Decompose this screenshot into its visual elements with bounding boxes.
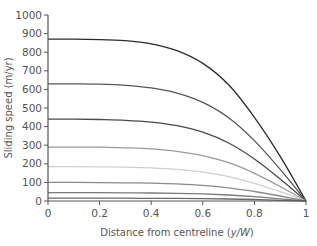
x-tick-label: 0: [45, 207, 52, 219]
x-tick-label: 0.6: [194, 207, 211, 219]
speed-curve-curve-3: [48, 119, 306, 201]
x-axis-title: Distance from centreline (y/W): [100, 227, 254, 238]
speed-curve-curve-1: [48, 39, 306, 201]
axes-group: [48, 15, 306, 201]
x-tick-label: 0.4: [143, 207, 160, 219]
y-tick-label: 0: [35, 195, 42, 207]
y-tick-label: 300: [22, 139, 42, 151]
y-tick-label: 800: [22, 46, 42, 58]
y-tick-label: 700: [22, 64, 42, 76]
curves-group: [48, 39, 306, 201]
x-tick-label: 0.2: [91, 207, 108, 219]
y-ticks: 01002003004005006007008009001000: [15, 9, 48, 207]
y-tick-label: 400: [22, 120, 42, 132]
y-tick-label: 200: [22, 157, 42, 169]
sliding-speed-chart: 01002003004005006007008009001000 00.20.4…: [0, 0, 317, 246]
y-tick-label: 1000: [15, 9, 42, 21]
y-axis-title: Sliding speed (m/yr): [3, 57, 14, 158]
y-tick-label: 900: [22, 27, 42, 39]
x-tick-label: 1: [303, 207, 310, 219]
x-tick-label: 0.8: [246, 207, 263, 219]
y-tick-label: 100: [22, 176, 42, 188]
x-ticks: 00.20.40.60.81: [45, 201, 310, 219]
y-tick-label: 600: [22, 83, 42, 95]
y-tick-label: 500: [22, 102, 42, 114]
